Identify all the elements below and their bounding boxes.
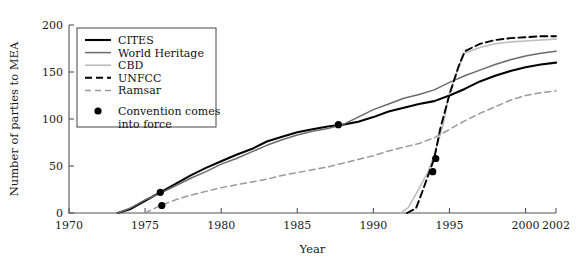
legend-label-cites: CITES [118,34,154,47]
chart-container: 0501001502001970197519801985199019952000… [0,0,579,262]
y-axis-tick-label: 200 [42,19,63,32]
y-axis-title: Number of parties to MEA [7,41,21,196]
x-axis-tick-label: 2000 [512,219,540,232]
series-line-unfcc [407,36,556,213]
marker-dot-ramsar [158,202,165,209]
x-axis-tick-label: 1980 [207,219,235,232]
y-axis-tick-label: 50 [49,160,63,173]
legend-marker-dot-icon [94,107,101,114]
x-axis-tick-label: 1970 [55,219,83,232]
x-axis-tick-label: 2002 [542,219,570,232]
legend-marker-label-line1: Convention comes [118,105,221,118]
line-chart: 0501001502001970197519801985199019952000… [0,0,579,262]
marker-dot-world-heritage [335,121,342,128]
legend-label-ramsar: Ramsar [118,84,162,97]
legend-label-unfcc: UNFCC [118,72,161,85]
x-axis-tick-label: 1990 [359,219,387,232]
x-axis-title: Year [299,242,326,256]
x-axis-tick-label: 1975 [131,219,159,232]
legend-label-cbd: CBD [118,59,144,72]
legend-marker-label-line2: into force [118,118,172,131]
y-axis-tick-label: 100 [42,113,63,126]
chart-legend: CITESWorld HeritageCBDUNFCCRamsarConvent… [77,28,221,131]
marker-dot-unfcc [432,155,439,162]
marker-dot-cbd [429,168,436,175]
legend-label-world-heritage: World Heritage [118,47,204,60]
y-axis-tick-label: 150 [42,66,63,79]
marker-dot-cites [157,189,164,196]
x-axis-tick-label: 1985 [283,219,311,232]
x-axis-tick-label: 1995 [435,219,463,232]
